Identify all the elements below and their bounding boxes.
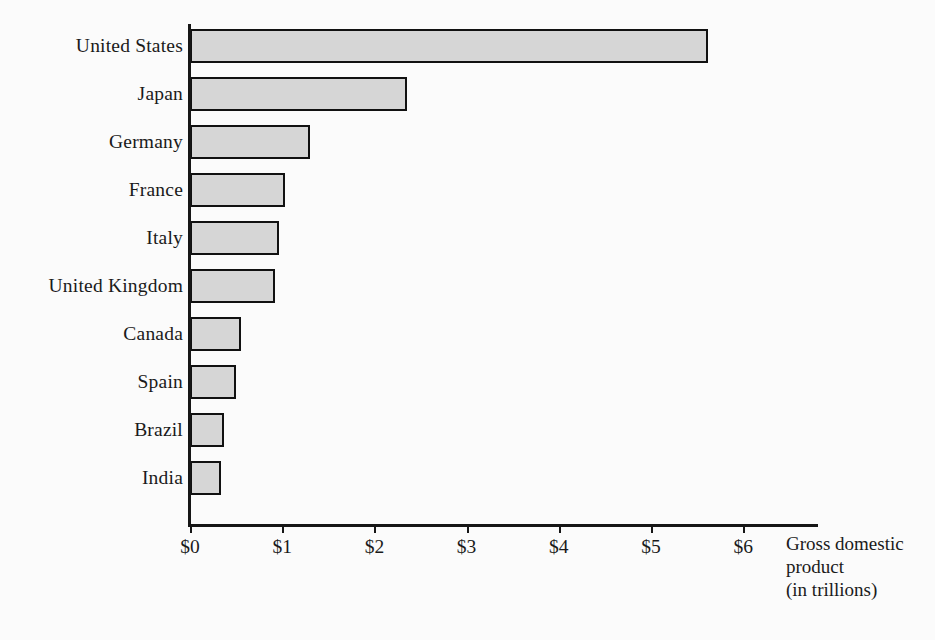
category-label: India (0, 454, 183, 502)
value-axis-title-line-1: Gross domestic (786, 532, 935, 555)
table-row: Canada (0, 310, 935, 358)
bar-italy (190, 221, 279, 255)
table-row: India (0, 454, 935, 502)
category-label: United States (0, 22, 183, 70)
axis-tick-label: $4 (529, 536, 589, 558)
axis-tick (559, 524, 561, 533)
table-row: Spain (0, 358, 935, 406)
value-axis-title: Gross domestic product (in trillions) (786, 532, 935, 601)
axis-tick (374, 524, 376, 533)
bar-spain (190, 365, 236, 399)
value-axis-title-line-2: product (786, 555, 935, 578)
bar-brazil (190, 413, 224, 447)
table-row: Germany (0, 118, 935, 166)
category-label: Brazil (0, 406, 183, 454)
bar-united-kingdom (190, 269, 275, 303)
chart-figure: United StatesJapanGermanyFranceItalyUnit… (0, 0, 935, 640)
axis-tick (190, 524, 192, 533)
axis-tick-label: $6 (713, 536, 773, 558)
axis-tick (743, 524, 745, 533)
bar-japan (190, 77, 407, 111)
table-row: Italy (0, 214, 935, 262)
category-label: Germany (0, 118, 183, 166)
table-row: France (0, 166, 935, 214)
axis-tick-label: $5 (621, 536, 681, 558)
value-axis-title-line-3: (in trillions) (786, 578, 935, 601)
table-row: Japan (0, 70, 935, 118)
axis-tick-label: $1 (252, 536, 312, 558)
axis-tick (651, 524, 653, 533)
axis-tick (467, 524, 469, 533)
category-axis-line (188, 24, 191, 524)
table-row: United States (0, 22, 935, 70)
category-label: Japan (0, 70, 183, 118)
category-label: France (0, 166, 183, 214)
bar-india (190, 461, 221, 495)
bar-france (190, 173, 285, 207)
bar-chart-plot: United StatesJapanGermanyFranceItalyUnit… (0, 0, 935, 640)
bar-germany (190, 125, 310, 159)
category-label: United Kingdom (0, 262, 183, 310)
axis-tick-label: $0 (160, 536, 220, 558)
table-row: Brazil (0, 406, 935, 454)
axis-tick (282, 524, 284, 533)
category-label: Canada (0, 310, 183, 358)
category-label: Italy (0, 214, 183, 262)
category-label: Spain (0, 358, 183, 406)
axis-tick-label: $3 (437, 536, 497, 558)
bar-united-states (190, 29, 708, 63)
axis-tick-label: $2 (344, 536, 404, 558)
table-row: United Kingdom (0, 262, 935, 310)
bar-canada (190, 317, 241, 351)
